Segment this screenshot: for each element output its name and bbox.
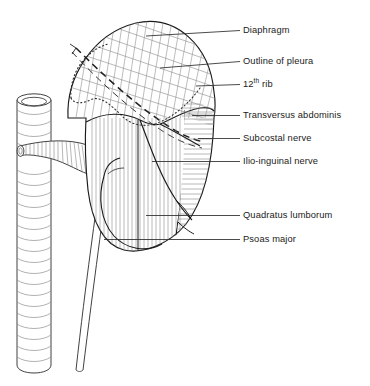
label-twelfth-rib-suffix: rib bbox=[259, 79, 272, 89]
label-ilio-inguinal-nerve: Ilio-inguinal nerve bbox=[243, 156, 318, 167]
label-diaphragm-text: Diaphragm bbox=[243, 25, 290, 35]
label-ilio-inguinal-nerve-text: Ilio-inguinal nerve bbox=[243, 156, 318, 166]
label-twelfth-rib: 12th rib bbox=[243, 79, 273, 90]
label-subcostal-nerve: Subcostal nerve bbox=[243, 133, 311, 144]
label-quadratus-lumborum: Quadratus lumborum bbox=[243, 210, 333, 221]
label-psoas-major-text: Psoas major bbox=[243, 234, 296, 244]
label-quadratus-lumborum-text: Quadratus lumborum bbox=[243, 210, 333, 220]
label-list: Diaphragm Outline of pleura 12th rib Tra… bbox=[0, 0, 370, 386]
label-transversus-abdominis-text: Transversus abdominis bbox=[243, 110, 341, 120]
label-subcostal-nerve-text: Subcostal nerve bbox=[243, 133, 311, 143]
anatomical-diagram-page: Diaphragm Outline of pleura 12th rib Tra… bbox=[0, 0, 370, 386]
label-twelfth-rib-number: 12 bbox=[243, 79, 254, 89]
label-outline-of-pleura-text: Outline of pleura bbox=[243, 56, 313, 66]
label-outline-of-pleura: Outline of pleura bbox=[243, 56, 313, 67]
label-diaphragm: Diaphragm bbox=[243, 25, 290, 36]
label-transversus-abdominis: Transversus abdominis bbox=[243, 110, 341, 121]
label-psoas-major: Psoas major bbox=[243, 234, 296, 245]
